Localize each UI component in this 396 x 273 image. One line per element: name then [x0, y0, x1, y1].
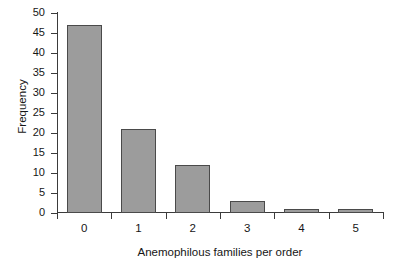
x-axis-title: Anemophilous families per order	[57, 245, 383, 259]
x-axis-tick	[274, 213, 275, 219]
bar	[338, 209, 373, 213]
bar-slot	[111, 13, 165, 213]
x-axis-tick-label: 4	[274, 222, 328, 235]
y-axis-tick-label: 20	[5, 127, 45, 138]
bar-series	[57, 13, 383, 213]
y-axis-tick-label: 25	[5, 107, 45, 118]
x-axis-tick-label: 0	[57, 222, 111, 235]
y-axis-tick-label: 45	[5, 27, 45, 38]
bar-slot	[220, 13, 274, 213]
bar	[284, 209, 319, 213]
plot-area	[57, 13, 383, 213]
x-axis-tick-labels: 012345	[57, 222, 383, 235]
bar-slot	[57, 13, 111, 213]
x-axis-tick	[220, 213, 221, 219]
y-axis-tick-label: 10	[5, 167, 45, 178]
bar	[175, 165, 210, 213]
bar-chart-figure: Frequency 50454035302520151050 012345 An…	[0, 0, 396, 273]
bar	[230, 201, 265, 213]
x-axis-tick	[329, 213, 330, 219]
x-axis-tick	[383, 213, 384, 219]
y-axis-tick-label: 30	[5, 87, 45, 98]
y-axis-tick-label: 5	[5, 187, 45, 198]
y-axis-tick-label: 50	[5, 7, 45, 18]
bar-slot	[329, 13, 383, 213]
x-axis-tick-label: 1	[111, 222, 165, 235]
bar	[121, 129, 156, 213]
x-axis-tick-label: 3	[220, 222, 274, 235]
bar-slot	[166, 13, 220, 213]
x-axis-tick	[57, 213, 58, 219]
y-axis-tick-label: 0	[5, 207, 45, 218]
x-axis-tick-label: 5	[329, 222, 383, 235]
y-axis-tick-label: 35	[5, 67, 45, 78]
bar	[67, 25, 102, 213]
x-axis-tick	[111, 213, 112, 219]
bar-slot	[274, 13, 328, 213]
x-axis-tick-label: 2	[166, 222, 220, 235]
y-axis-tick-label: 15	[5, 147, 45, 158]
y-axis-tick-label: 40	[5, 47, 45, 58]
x-axis-tick	[166, 213, 167, 219]
